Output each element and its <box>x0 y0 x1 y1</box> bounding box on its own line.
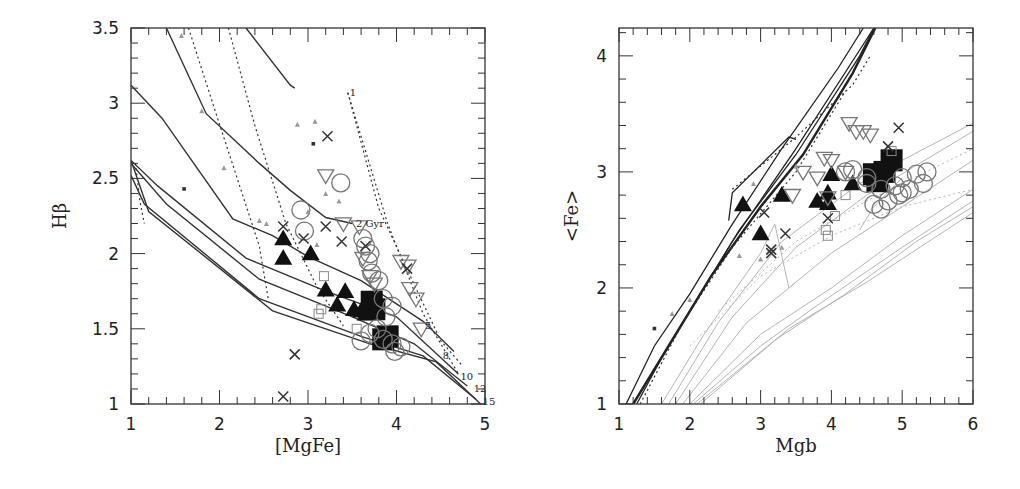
marker-small-gray-triangles <box>687 297 692 302</box>
model-line-gray <box>700 213 973 405</box>
x-tick-label: 3 <box>303 414 314 434</box>
age-label: 2 Gyr <box>356 218 384 229</box>
age-label: 8 <box>443 350 449 361</box>
marker-small-squares <box>312 142 316 146</box>
x-tick-label: 1 <box>126 414 137 434</box>
marker-crosses <box>290 349 300 359</box>
age-label: 10 <box>460 371 473 382</box>
axes-frame: 1234511.522.533.5 <box>92 18 490 434</box>
plot-frame <box>619 28 973 404</box>
marker-small-gray-triangles <box>737 253 742 258</box>
age-label: 1 <box>350 87 356 98</box>
marker-filled-triangles <box>336 282 354 298</box>
y-tick-label: 2 <box>596 278 607 298</box>
y-tick-label: 3 <box>108 93 119 113</box>
marker-crosses <box>361 241 371 251</box>
marker-small-gray-triangles <box>751 181 756 186</box>
data-points <box>179 33 429 401</box>
marker-crosses <box>823 213 833 223</box>
age-label: 5 <box>425 320 431 331</box>
isochrone-dashed <box>348 93 459 374</box>
marker-open-triangles-down <box>841 118 857 132</box>
model-line-dashed <box>640 91 845 404</box>
age-annotations: 12 Gyr58101215 <box>350 87 495 408</box>
x-tick-label: 5 <box>897 414 908 434</box>
marker-open-circles <box>363 264 381 282</box>
marker-open-circles <box>918 163 936 181</box>
x-tick-label: 4 <box>826 414 837 434</box>
y-tick-label: 3 <box>596 162 607 182</box>
marker-open-circles <box>837 163 855 181</box>
isochrone-dashed <box>189 28 269 299</box>
marker-small-gray-triangles <box>336 198 341 203</box>
x-tick-label: 2 <box>214 414 225 434</box>
y-tick-label: 2.5 <box>92 168 119 188</box>
y-tick-label: 2 <box>108 244 119 264</box>
y-tick-label: 4 <box>596 46 607 66</box>
marker-small-gray-triangles <box>758 256 763 261</box>
marker-small-gray-triangles <box>221 165 226 170</box>
marker-crosses <box>337 237 347 247</box>
marker-filled-triangles <box>274 249 292 265</box>
x-tick-label: 6 <box>968 414 979 434</box>
model-line-gray <box>669 123 973 404</box>
marker-crosses <box>321 222 331 232</box>
x-tick-label: 1 <box>614 414 625 434</box>
model-line-dashed <box>732 56 870 189</box>
marker-open-circles <box>332 174 350 192</box>
x-axis-label: [MgFe] <box>275 435 341 456</box>
marker-small-gray-triangles <box>314 242 319 247</box>
y-tick-label: 1.5 <box>92 319 119 339</box>
marker-small-squares <box>653 327 657 331</box>
marker-filled-triangles <box>752 224 770 240</box>
figure: 12 Gyr58101215 1234511.522.533.5 [MgFe] … <box>0 0 1020 489</box>
marker-small-gray-triangles <box>313 119 318 124</box>
marker-crosses <box>278 391 288 401</box>
marker-small-squares <box>182 187 186 191</box>
marker-crosses <box>894 123 904 133</box>
chart-panel-left: 12 Gyr58101215 1234511.522.533.5 [MgFe] … <box>49 18 495 456</box>
y-tick-label: 1 <box>596 394 607 414</box>
model-grid-lines <box>131 28 481 404</box>
marker-small-gray-triangles <box>670 311 675 316</box>
x-axis-label: Mgb <box>775 435 816 456</box>
marker-open-triangles-down <box>809 172 825 186</box>
model-line <box>626 28 863 404</box>
marker-open-circles <box>292 201 310 219</box>
marker-crosses <box>322 131 332 141</box>
y-tick-label: 3.5 <box>92 18 119 38</box>
data-points <box>653 118 936 331</box>
model-grid-lines <box>626 28 973 404</box>
chart-panel-right: 1234561234 Mgb <Fe> <box>561 28 978 456</box>
model-line <box>131 175 476 399</box>
x-tick-label: 3 <box>755 414 766 434</box>
marker-small-gray-triangles <box>323 191 328 196</box>
model-line <box>246 28 295 88</box>
marker-small-gray-triangles <box>179 33 184 38</box>
marker-open-triangles-down <box>402 283 418 297</box>
marker-filled-squares <box>874 161 896 183</box>
x-tick-label: 2 <box>684 414 695 434</box>
y-tick-label: 1 <box>108 394 119 414</box>
y-axis-label: <Fe> <box>561 190 582 242</box>
marker-small-gray-triangles <box>264 221 269 226</box>
marker-open-squares <box>821 225 830 234</box>
model-line-gray-dashed <box>690 189 973 346</box>
x-tick-label: 5 <box>480 414 491 434</box>
marker-small-gray-triangles <box>295 122 300 127</box>
x-tick-label: 4 <box>391 414 402 434</box>
y-axis-label: Hβ <box>49 203 70 229</box>
marker-small-gray-triangles <box>257 218 262 223</box>
marker-open-squares <box>319 272 328 281</box>
marker-crosses <box>780 228 790 238</box>
